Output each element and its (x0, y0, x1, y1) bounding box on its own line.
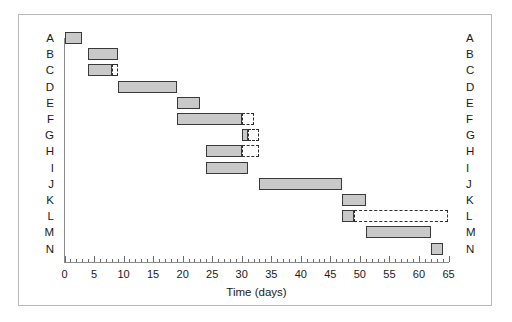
x-axis-minor-tick (289, 259, 290, 263)
row-label-right-e: E (466, 97, 490, 109)
x-axis-minor-tick (224, 259, 225, 263)
x-axis-tick-label: 50 (354, 268, 366, 280)
task-bar-d[interactable] (118, 81, 177, 93)
row-label-left-f: F (30, 113, 54, 125)
row-label-left-a: A (30, 32, 54, 44)
task-bar-n[interactable] (431, 243, 443, 255)
slack-bar-c (112, 64, 118, 76)
x-axis-title: Time (days) (226, 286, 286, 298)
row-label-left-k: K (30, 194, 54, 206)
x-axis-major-tick (124, 256, 125, 262)
task-bar-b[interactable] (88, 48, 118, 60)
x-axis-minor-tick (437, 259, 438, 263)
row-label-left-d: D (30, 81, 54, 93)
x-axis-minor-tick (76, 259, 77, 263)
x-axis-tick-label: 15 (147, 268, 159, 280)
task-bar-h[interactable] (206, 145, 241, 157)
row-label-right-l: L (466, 210, 490, 222)
x-axis-tick-label: 30 (236, 268, 248, 280)
row-label-right-m: M (466, 226, 490, 238)
row-label-right-b: B (466, 48, 490, 60)
task-bar-f[interactable] (177, 113, 242, 125)
row-label-right-d: D (466, 81, 490, 93)
gantt-chart-figure: 05101520253035404550556065Time (days)AAB… (0, 0, 512, 322)
x-axis-minor-tick (147, 259, 148, 263)
row-label-right-n: N (466, 243, 490, 255)
x-axis-major-tick (449, 256, 450, 262)
x-axis-major-tick (94, 256, 95, 262)
x-axis-minor-tick (236, 259, 237, 263)
row-label-left-c: C (30, 64, 54, 76)
row-label-left-e: E (30, 97, 54, 109)
x-axis-minor-tick (141, 259, 142, 263)
x-axis-minor-tick (336, 259, 337, 263)
x-axis-minor-tick (254, 259, 255, 263)
row-label-right-i: I (466, 162, 490, 174)
x-axis-minor-tick (218, 259, 219, 263)
x-axis-minor-tick (129, 259, 130, 263)
task-bar-m[interactable] (366, 226, 431, 238)
task-bar-e[interactable] (177, 97, 201, 109)
task-bar-j[interactable] (259, 178, 342, 190)
x-axis-minor-tick (100, 259, 101, 263)
x-axis-tick-label: 60 (413, 268, 425, 280)
x-axis-minor-tick (372, 259, 373, 263)
slack-bar-g (248, 129, 260, 141)
x-axis-minor-tick (378, 259, 379, 263)
x-axis-major-tick (212, 256, 213, 262)
x-axis-tick-label: 35 (265, 268, 277, 280)
x-axis-tick-label: 0 (61, 268, 67, 280)
slack-bar-h (242, 145, 260, 157)
row-label-left-i: I (30, 162, 54, 174)
x-axis-minor-tick (354, 259, 355, 263)
x-axis-major-tick (183, 256, 184, 262)
x-axis-tick-label: 20 (177, 268, 189, 280)
x-axis-line (64, 262, 449, 263)
x-axis-minor-tick (189, 259, 190, 263)
task-bar-k[interactable] (342, 194, 366, 206)
x-axis-minor-tick (324, 259, 325, 263)
task-bar-i[interactable] (206, 162, 247, 174)
x-axis-minor-tick (194, 259, 195, 263)
x-axis-minor-tick (82, 259, 83, 263)
x-axis-major-tick (419, 256, 420, 262)
plot-area: 05101520253035404550556065Time (days)AAB… (0, 0, 512, 322)
row-label-left-b: B (30, 48, 54, 60)
x-axis-minor-tick (277, 259, 278, 263)
x-axis-major-tick (389, 256, 390, 262)
x-axis-minor-tick (230, 259, 231, 263)
task-bar-a[interactable] (65, 32, 83, 44)
row-label-right-a: A (466, 32, 490, 44)
x-axis-major-tick (330, 256, 331, 262)
x-axis-minor-tick (413, 259, 414, 263)
row-label-left-n: N (30, 243, 54, 255)
x-axis-minor-tick (295, 259, 296, 263)
task-bar-g[interactable] (242, 129, 248, 141)
x-axis-major-tick (360, 256, 361, 262)
x-axis-tick-label: 10 (117, 268, 129, 280)
x-axis-minor-tick (407, 259, 408, 263)
x-axis-minor-tick (313, 259, 314, 263)
x-axis-minor-tick (342, 259, 343, 263)
x-axis-minor-tick (395, 259, 396, 263)
task-bar-l[interactable] (342, 210, 354, 222)
x-axis-tick-label: 40 (295, 268, 307, 280)
x-axis-minor-tick (348, 259, 349, 263)
x-axis-tick-label: 45 (324, 268, 336, 280)
x-axis-minor-tick (200, 259, 201, 263)
x-axis-minor-tick (443, 259, 444, 263)
row-label-right-h: H (466, 145, 490, 157)
x-axis-minor-tick (319, 259, 320, 263)
x-axis-major-tick (242, 256, 243, 262)
x-axis-minor-tick (165, 259, 166, 263)
x-axis-minor-tick (384, 259, 385, 263)
x-axis-minor-tick (70, 259, 71, 263)
x-axis-minor-tick (366, 259, 367, 263)
x-axis-minor-tick (112, 259, 113, 263)
x-axis-minor-tick (425, 259, 426, 263)
task-bar-c[interactable] (88, 64, 112, 76)
x-axis-tick-label: 25 (206, 268, 218, 280)
x-axis-tick-label: 65 (442, 268, 454, 280)
row-label-right-c: C (466, 64, 490, 76)
x-axis-minor-tick (88, 259, 89, 263)
